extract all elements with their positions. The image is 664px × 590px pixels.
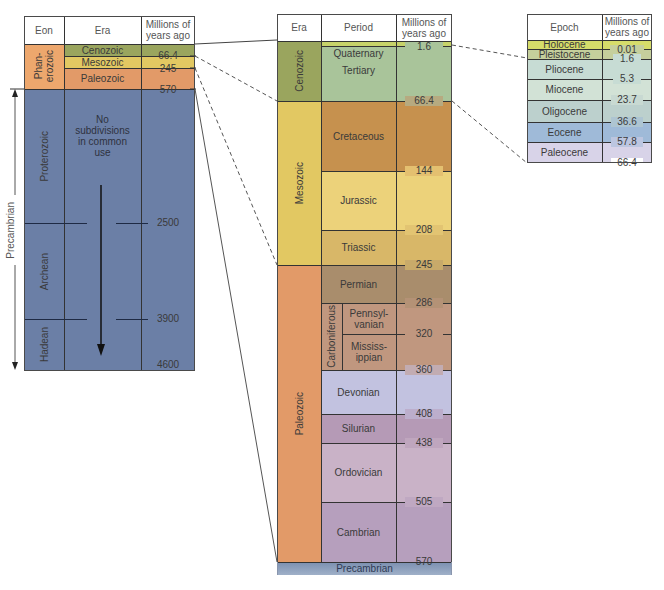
connector-lines (0, 0, 664, 590)
